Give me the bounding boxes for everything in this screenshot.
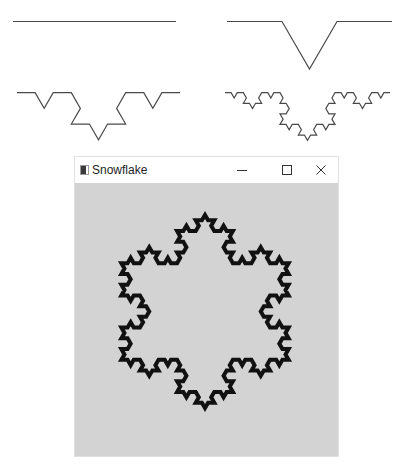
window-titlebar[interactable]: Snowflake: [75, 157, 338, 183]
drawing-canvas: [75, 183, 338, 456]
koch-curve-level-3: [225, 93, 390, 141]
maximize-icon: [281, 164, 293, 176]
koch-curve-level-2: [17, 93, 180, 140]
koch-curve-level-1: [227, 22, 392, 70]
close-icon: [315, 164, 327, 176]
koch-snowflake: [121, 215, 288, 408]
minimize-button[interactable]: [225, 157, 259, 183]
maximize-button[interactable]: [270, 157, 304, 183]
app-icon: [80, 165, 89, 175]
koch-curve-iterations-figure: [0, 0, 404, 160]
close-button[interactable]: [304, 157, 338, 183]
snowflake-window: Snowflake: [75, 157, 338, 456]
snowflake-drawing: [75, 183, 338, 456]
window-title: Snowflake: [92, 163, 147, 177]
minimize-icon: [236, 164, 248, 176]
